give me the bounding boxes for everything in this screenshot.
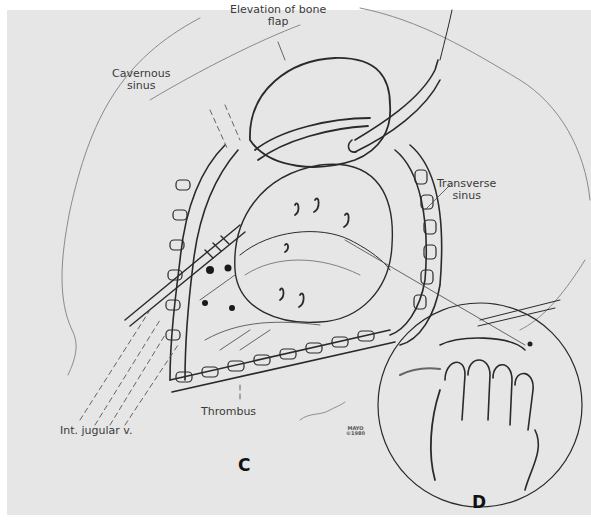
signature-mark: MAYO ©1980: [346, 426, 365, 436]
surgical-drawing: [0, 0, 591, 523]
inset-circle: [378, 303, 582, 507]
inset-hand: [400, 300, 560, 490]
sutures: [280, 199, 349, 307]
inset-spot: [528, 342, 533, 347]
label-bone-flap: Elevation of bone flap: [230, 4, 326, 28]
label-transverse-line2: sinus: [437, 190, 496, 202]
label-cavernous-line2: sinus: [112, 80, 170, 92]
artist-signature: [300, 402, 345, 420]
label-bone-flap-line2: flap: [230, 16, 326, 28]
retractor: [349, 10, 452, 152]
head-outline: [62, 8, 590, 375]
panel-label-d: D: [472, 492, 486, 512]
suction-instrument: [125, 225, 245, 326]
label-transverse-sinus: Transverse sinus: [437, 178, 496, 202]
label-thrombus: Thrombus: [201, 406, 256, 418]
signature-line2: ©1980: [346, 431, 365, 436]
brain-exposure: [235, 164, 393, 322]
label-int-jugular: Int. jugular v.: [60, 425, 132, 437]
tentorium: [200, 275, 320, 350]
thrombus-marks: [202, 265, 235, 312]
label-cavernous-sinus: Cavernous sinus: [112, 68, 170, 92]
bone-flap: [250, 58, 390, 167]
panel-label-c: C: [238, 455, 250, 475]
